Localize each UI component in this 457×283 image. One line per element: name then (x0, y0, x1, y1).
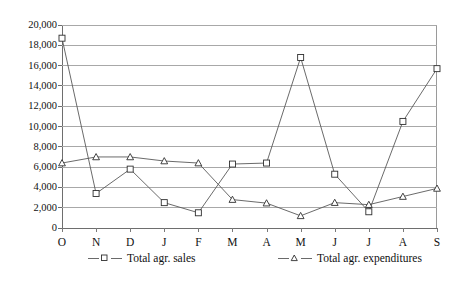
y-axis-tick-label: 16,000 (28, 61, 57, 72)
y-axis-tick-mark (58, 207, 62, 208)
x-axis-tick-mark (96, 228, 97, 232)
y-axis-tick-mark (58, 228, 62, 229)
x-axis-tick-label: A (391, 236, 415, 248)
x-axis-tick-mark (267, 228, 268, 232)
data-point-square[interactable] (59, 35, 65, 41)
y-axis-tick-label: 6,000 (33, 162, 57, 173)
y-axis-tick-mark (58, 45, 62, 46)
x-axis-tick-mark (437, 228, 438, 232)
agriculture-line-chart: 02,0004,0006,0008,00010,00012,00014,0001… (0, 0, 457, 283)
y-axis: 02,0004,0006,0008,00010,00012,00014,0001… (0, 25, 57, 228)
data-point-square[interactable] (332, 171, 338, 177)
data-point-square[interactable] (264, 160, 270, 166)
x-axis-tick-label: M (289, 236, 313, 248)
series-line-total-agr-expenditures (62, 157, 437, 216)
series-layer (62, 25, 437, 228)
data-point-square[interactable] (434, 66, 440, 72)
chart-legend: Total agr. sales Total agr. expenditures (0, 252, 457, 274)
x-axis-tick-label: J (152, 236, 176, 248)
y-axis-tick-label: 4,000 (33, 182, 57, 193)
y-axis-tick-label: 8,000 (33, 142, 57, 153)
y-axis-tick-mark (58, 25, 62, 26)
x-axis-tick-label: D (118, 236, 142, 248)
y-axis-tick-label: 20,000 (28, 20, 57, 31)
data-point-square[interactable] (195, 210, 201, 216)
data-point-triangle[interactable] (297, 212, 304, 218)
x-axis-tick-mark (164, 228, 165, 232)
data-point-square[interactable] (161, 200, 167, 206)
x-axis-tick-mark (369, 228, 370, 232)
x-axis-tick-label: A (255, 236, 279, 248)
triangle-marker-icon (278, 253, 312, 264)
data-point-square[interactable] (93, 190, 99, 196)
x-axis-tick-label: J (323, 236, 347, 248)
x-axis-tick-mark (232, 228, 233, 232)
square-marker-icon (88, 253, 122, 264)
x-axis-tick-label: O (50, 236, 74, 248)
y-axis-tick-label: 10,000 (28, 122, 57, 133)
data-point-square[interactable] (298, 54, 304, 60)
y-axis-tick-mark (58, 106, 62, 107)
plot-area (62, 25, 437, 228)
legend-item-total-agr-sales[interactable]: Total agr. sales (88, 252, 196, 265)
x-axis-tick-label: F (186, 236, 210, 248)
x-axis-tick-mark (130, 228, 131, 232)
data-point-square[interactable] (366, 209, 372, 215)
y-axis-tick-mark (58, 85, 62, 86)
data-point-square[interactable] (127, 166, 133, 172)
x-axis-tick-mark (62, 228, 63, 232)
y-axis-tick-mark (58, 126, 62, 127)
legend-item-total-agr-expenditures[interactable]: Total agr. expenditures (278, 252, 422, 265)
x-axis-tick-label: J (357, 236, 381, 248)
x-axis-tick-mark (335, 228, 336, 232)
data-point-triangle[interactable] (434, 185, 441, 191)
y-axis-tick-label: 2,000 (33, 203, 57, 214)
x-axis-tick-label: N (84, 236, 108, 248)
y-axis-tick-label: 0 (52, 223, 57, 234)
data-point-square[interactable] (229, 161, 235, 167)
y-axis-tick-mark (58, 65, 62, 66)
legend-label-expenditures: Total agr. expenditures (317, 252, 422, 265)
y-axis-tick-mark (58, 167, 62, 168)
x-axis-tick-label: S (425, 236, 449, 248)
x-axis-tick-mark (403, 228, 404, 232)
x-axis-tick-mark (198, 228, 199, 232)
y-axis-tick-label: 12,000 (28, 101, 57, 112)
data-point-square[interactable] (400, 118, 406, 124)
y-axis-tick-mark (58, 146, 62, 147)
legend-label-sales: Total agr. sales (127, 252, 196, 265)
x-axis-tick-label: M (220, 236, 244, 248)
series-line-total-agr-sales (62, 38, 437, 213)
y-axis-tick-label: 18,000 (28, 40, 57, 51)
x-axis-tick-mark (301, 228, 302, 232)
y-axis-tick-mark (58, 187, 62, 188)
y-axis-tick-label: 14,000 (28, 81, 57, 92)
